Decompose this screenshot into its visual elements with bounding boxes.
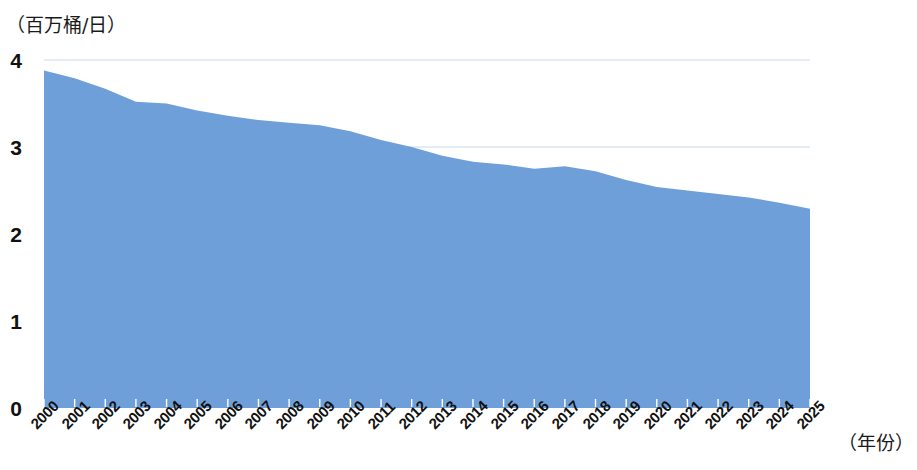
y-axis-tick-label: 2 xyxy=(10,224,22,245)
plot-area xyxy=(44,60,810,408)
x-axis-tick-group: 2000200120022003200420052006200720082009… xyxy=(0,406,917,470)
y-axis-tick-group: 01234 xyxy=(0,0,44,470)
x-axis-unit-label: （年份） xyxy=(838,428,914,455)
area-chart: （百万桶/日） 01234 20002001200220032004200520… xyxy=(0,0,917,470)
y-axis-tick-label: 3 xyxy=(10,137,22,158)
y-axis-tick-label: 1 xyxy=(10,311,22,332)
y-axis-tick-label: 4 xyxy=(10,50,22,71)
series-area-plot xyxy=(44,60,810,408)
series-area-path xyxy=(44,70,810,408)
